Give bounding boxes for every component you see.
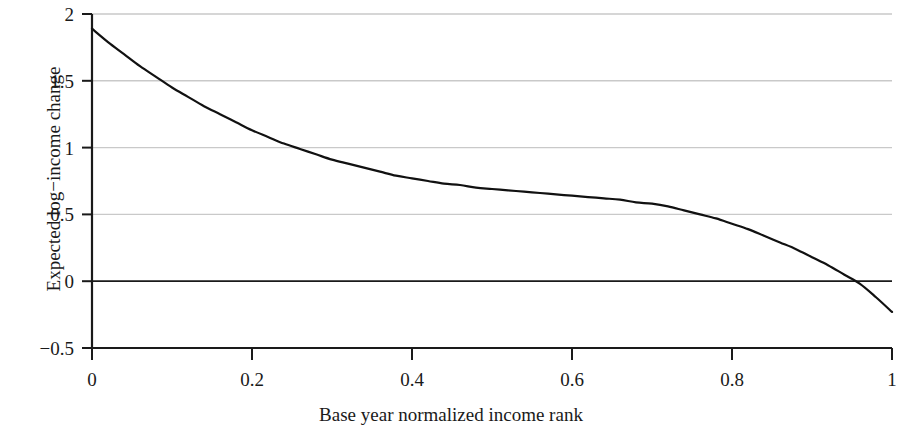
x-tick-label-1: 1 (887, 370, 897, 389)
chart-figure: 2 1.5 1 0.5 0 −0.5 0 0.2 0.4 0.6 0.8 1 B… (0, 0, 902, 434)
data-series-line (92, 29, 892, 312)
x-tick-label-0p6: 0.6 (560, 370, 584, 389)
y-axis-title: Expected log−income change (43, 29, 65, 329)
chart-plot-area (0, 0, 902, 434)
x-tick-label-0: 0 (87, 370, 97, 389)
gridlines (92, 14, 892, 214)
x-axis-title: Base year normalized income rank (0, 404, 902, 426)
y-tick-label-2: 2 (28, 5, 74, 24)
x-tick-label-0p8: 0.8 (720, 370, 744, 389)
x-tick-label-0p4: 0.4 (400, 370, 424, 389)
y-axis-ticks (82, 14, 92, 348)
x-axis-ticks (92, 348, 892, 360)
x-tick-label-0p2: 0.2 (240, 370, 264, 389)
y-tick-label-neg0p5: −0.5 (20, 339, 74, 358)
